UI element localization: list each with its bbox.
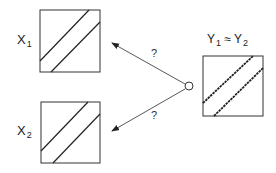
label-y1-main: Y [207,32,215,46]
label-y2-main: Y [234,32,242,46]
label-x1-sub: 1 [27,39,32,49]
label-x2: X2 [17,124,32,140]
label-x1-main: X [17,32,26,47]
arrow-to-x1 [112,43,185,84]
panel-x1 [40,10,100,72]
source-node-circle [185,82,193,90]
label-approx-symbol: ≈ [224,32,231,46]
panel-y [203,56,263,116]
label-y2-sub: 2 [243,38,248,48]
panel-x2 [41,102,100,163]
arrow-label-top: ? [151,48,157,59]
label-x2-sub: 2 [27,130,32,140]
arrow-to-x2 [112,89,185,131]
label-y1-sub: 1 [216,38,221,48]
arrow-label-bottom: ? [151,110,157,121]
label-x2-main: X [17,123,26,138]
diagram-canvas [0,0,276,173]
label-y: Y1 ≈ Y2 [207,33,248,48]
label-x1: X1 [17,33,32,49]
